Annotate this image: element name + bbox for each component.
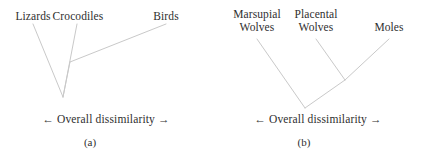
leaf-label-placental-wolves-line1: Placental [287,8,345,21]
panel-a-caption: (a) [0,136,180,148]
leaf-label-placental-wolves: Placental Wolves [287,8,345,34]
moles-branch-line [345,39,389,80]
panel-a: Lizards Crocodiles Birds ← Overall dissi… [0,0,212,157]
panel-a-axis-label: ← Overall dissimilarity → [0,113,212,125]
leaf-label-marsupial-wolves-line2: Wolves [228,21,286,34]
leaf-label-marsupial-wolves: Marsupial Wolves [228,8,286,34]
panel-a-tree-lines [0,0,212,157]
lizards-branch-line [33,24,63,97]
panel-b: Marsupial Wolves Placental Wolves Moles … [212,0,424,157]
marsupial-wolves-branch-line [257,39,305,108]
leaf-label-marsupial-wolves-line1: Marsupial [228,8,286,21]
leaf-label-birds: Birds [140,10,192,23]
leaf-label-moles: Moles [363,21,415,34]
inner-node-stem-line [305,80,345,108]
leaf-label-crocodiles: Crocodiles [49,10,107,23]
birds-branch-line [70,24,166,62]
leaf-label-placental-wolves-line2: Wolves [287,21,345,34]
inner-node-stem-line [63,62,70,97]
panel-b-caption: (b) [212,136,396,148]
panel-b-axis-label: ← Overall dissimilarity → [212,113,424,125]
dendrogram-figure: Lizards Crocodiles Birds ← Overall dissi… [0,0,424,157]
placental-wolves-branch-line [316,39,345,80]
